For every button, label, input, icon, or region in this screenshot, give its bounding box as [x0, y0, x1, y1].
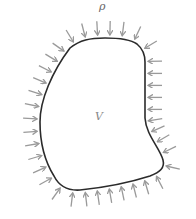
pressure-arrow-icon — [25, 104, 39, 107]
pressure-arrow-icon — [25, 144, 39, 146]
pressure-arrow-icon — [163, 146, 176, 152]
pressure-arrow-icon — [29, 90, 42, 94]
pressure-arrow-icon — [145, 181, 149, 194]
pressure-arrow-icon — [52, 188, 60, 199]
pressure-arrow-icon — [122, 22, 124, 36]
pressure-arrow-icon — [45, 54, 57, 61]
pressure-arrow-icon — [152, 126, 165, 132]
pressure-arrow-icon — [53, 43, 64, 51]
pressure-arrow-icon — [166, 166, 180, 169]
pressure-arrow-icon — [28, 156, 41, 160]
pressure-arrow-icon — [33, 167, 46, 173]
pressure-arrow-icon — [133, 184, 136, 198]
pressure-arrow-icon — [109, 189, 111, 203]
pressure-arrow-icon — [33, 78, 46, 84]
pressure-arrow-icon — [157, 135, 169, 142]
pressure-arrow-icon — [148, 119, 162, 121]
pressure-arrow-icon — [39, 66, 51, 72]
pressure-arrow-icon — [66, 30, 73, 42]
pressure-arrow-icon — [71, 193, 73, 207]
pressure-arrow-icon — [145, 41, 157, 48]
pressure-arrow-icon — [85, 192, 87, 206]
pressure-label: ρ — [99, 1, 105, 12]
pressure-arrow-icon — [39, 178, 51, 185]
pressure-arrow-icon — [23, 118, 37, 119]
pressure-arrow-icon — [82, 24, 86, 38]
pressure-arrow-icon — [23, 131, 37, 132]
pressure-arrow-icon — [121, 187, 124, 201]
pressure-arrow-icon — [97, 191, 99, 205]
volume-label: V — [95, 111, 103, 122]
pressure-arrow-icon — [157, 176, 163, 188]
pressure-arrow-icon — [135, 27, 141, 40]
pressure-arrow-icon — [97, 21, 98, 35]
